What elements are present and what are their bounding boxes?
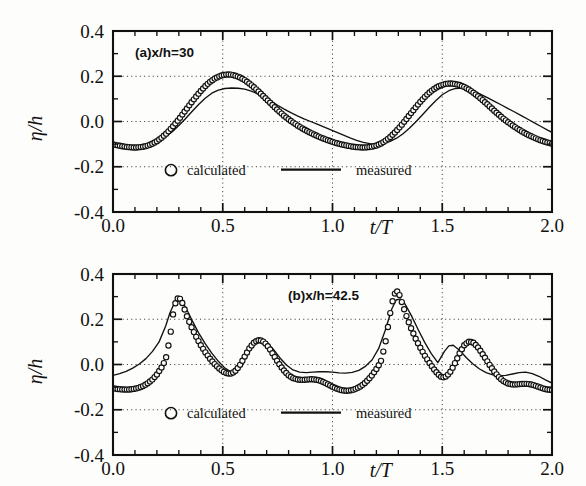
legend-circle-icon [165,408,176,419]
y-tick-label: -0.2 [74,156,104,177]
legend-label-calculated: calculated [187,405,247,421]
panel-a-canvas: 0.40.20.0-0.2-0.40.00.51.01.52.0t/Tη/h(a… [0,0,586,243]
x-tick-label: 0.5 [211,458,235,479]
chart-panel-a: 0.40.20.0-0.2-0.40.00.51.01.52.0t/Tη/h(a… [0,0,586,243]
x-tick-label: 0.0 [101,458,125,479]
y-tick-label: -0.4 [74,445,105,466]
x-axis-title: t/T [370,216,394,238]
y-tick-label: 0.2 [80,309,104,330]
x-tick-label: 1.5 [430,215,454,236]
x-tick-label: 1.0 [321,215,345,236]
figure-root: 0.40.20.0-0.2-0.40.00.51.01.52.0t/Tη/h(a… [0,0,586,486]
legend: calculatedmeasured [165,405,412,421]
legend-circle-icon [165,165,176,176]
x-tick-label: 1.0 [321,458,345,479]
x-tick-label: 0.0 [101,215,125,236]
chart-panel-b: 0.40.20.0-0.2-0.40.00.51.01.52.0t/Tη/h(b… [0,243,586,486]
legend-label-calculated: calculated [187,162,247,178]
series-calculated [110,289,554,393]
panel-label-a: (a)x/h=30 [135,45,194,60]
legend: calculatedmeasured [165,162,412,178]
panel-b-canvas: 0.40.20.0-0.2-0.40.00.51.01.52.0t/Tη/h(b… [0,243,586,486]
y-tick-label: 0.0 [80,354,104,375]
x-tick-label: 2.0 [540,458,564,479]
y-tick-label: 0.0 [80,111,104,132]
y-tick-label: -0.4 [74,202,105,223]
y-tick-label: 0.4 [80,264,104,285]
x-tick-labels: 0.00.51.01.52.0 [101,458,564,479]
panel-label-b: (b)x/h=42.5 [288,288,359,303]
x-tick-labels: 0.00.51.01.52.0 [101,215,564,236]
legend-label-measured: measured [356,162,412,178]
x-tick-label: 1.5 [430,458,454,479]
y-tick-label: -0.2 [74,399,104,420]
y-tick-label: 0.4 [80,21,104,42]
y-tick-label: 0.2 [80,66,104,87]
plot-a: 0.40.20.0-0.2-0.40.00.51.01.52.0t/Tη/h(a… [0,0,586,243]
y-tick-labels: 0.40.20.0-0.2-0.4 [74,21,105,223]
y-axis-title: η/h [24,116,47,141]
legend-label-measured: measured [356,405,412,421]
y-axis-title: η/h [24,359,47,384]
x-axis-title: t/T [370,459,394,481]
x-tick-label: 0.5 [211,215,235,236]
y-tick-labels: 0.40.20.0-0.2-0.4 [74,264,105,466]
plot-b: 0.40.20.0-0.2-0.40.00.51.01.52.0t/Tη/h(b… [0,243,586,486]
x-tick-label: 2.0 [540,215,564,236]
